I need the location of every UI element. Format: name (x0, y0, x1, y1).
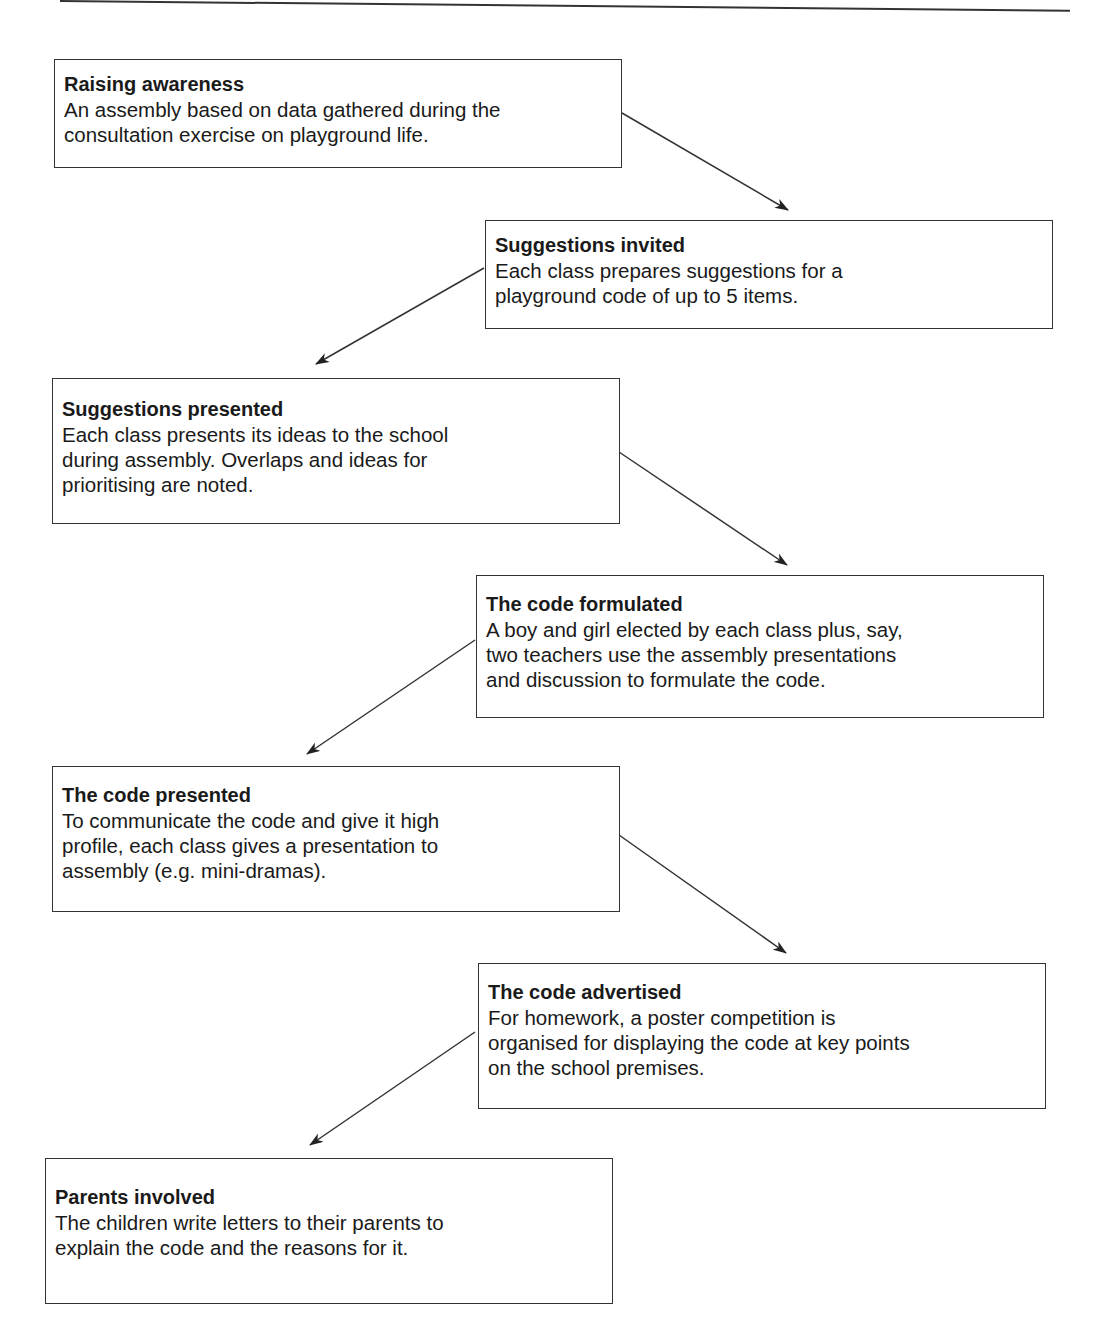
step-body: For homework, a poster competition is or… (488, 1005, 1037, 1080)
step-body: The children write letters to their pare… (55, 1210, 604, 1260)
step-raising-awareness: Raising awareness An assembly based on d… (54, 59, 622, 168)
step-code-presented: The code presented To communicate the co… (52, 766, 620, 912)
step-body: Each class presents its ideas to the sch… (62, 422, 611, 497)
step-title: The code presented (62, 783, 611, 808)
step-suggestions-presented: Suggestions presented Each class present… (52, 378, 620, 524)
arrow-2 (316, 268, 484, 364)
step-title: Suggestions presented (62, 397, 611, 422)
step-body: Each class prepares suggestions for a pl… (495, 258, 1044, 308)
step-title: Suggestions invited (495, 233, 1044, 258)
arrow-1 (622, 113, 788, 210)
arrow-5 (619, 835, 786, 953)
step-suggestions-invited: Suggestions invited Each class prepares … (485, 220, 1053, 329)
step-code-formulated: The code formulated A boy and girl elect… (476, 575, 1044, 718)
step-body: To communicate the code and give it high… (62, 808, 611, 883)
step-code-advertised: The code advertised For homework, a post… (478, 963, 1046, 1109)
step-title: The code formulated (486, 592, 1035, 617)
step-title: Parents involved (55, 1185, 604, 1210)
step-body: A boy and girl elected by each class plu… (486, 617, 1035, 692)
step-parents-involved: Parents involved The children write lett… (45, 1158, 613, 1304)
arrow-4 (307, 640, 475, 754)
step-body: An assembly based on data gathered durin… (64, 97, 613, 147)
arrow-6 (310, 1032, 475, 1145)
step-title: Raising awareness (64, 72, 613, 97)
step-title: The code advertised (488, 980, 1037, 1005)
arrow-3 (619, 452, 787, 565)
